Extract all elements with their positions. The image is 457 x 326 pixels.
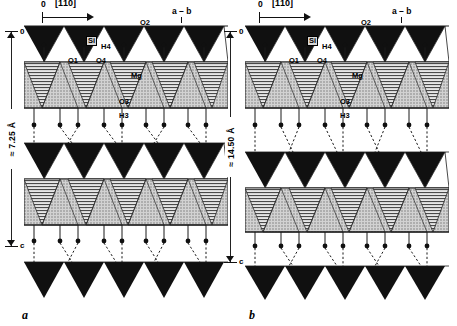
direction-axis-a: 0 [110] bbox=[42, 10, 94, 24]
interlayer-atoms2-a bbox=[32, 239, 209, 244]
c-axis-bottom-cap-a bbox=[5, 246, 18, 247]
atom-label-O1-a: O1 bbox=[68, 57, 78, 65]
ab-tick-a bbox=[181, 17, 182, 23]
atom-label-Si-b: Si bbox=[307, 36, 318, 46]
panel-b: 0 [110] a – b 0 c ≈ 14.50 Å bbox=[229, 0, 457, 326]
ab-label-text-b: a – b bbox=[392, 6, 411, 16]
c-axis-bottom-arrow-a bbox=[7, 240, 15, 246]
atom-label-Si-a: Si bbox=[86, 36, 97, 46]
atom-label-H3-a: H3 bbox=[119, 112, 129, 120]
tetra-row-bottom-a bbox=[24, 262, 228, 298]
c-axis-top-arrow-b bbox=[226, 32, 234, 38]
direction-label-b: [110] bbox=[272, 0, 293, 8]
ab-label-b: a – b bbox=[392, 6, 411, 23]
cell-parameter-a: ≈ 7.25 Å bbox=[6, 109, 18, 169]
hbonds2-b bbox=[255, 248, 427, 266]
cell-parameter-b: ≈ 14.50 Å bbox=[225, 117, 237, 177]
interlayer-atoms-b bbox=[253, 123, 430, 128]
atom-label-O3-b: O3 bbox=[340, 98, 350, 106]
structure-svg-a bbox=[24, 24, 228, 300]
c-axis-bottom-arrow-b bbox=[226, 256, 234, 262]
ab-label-text-a: a – b bbox=[172, 6, 191, 16]
interlayer-atoms2-b bbox=[253, 244, 430, 249]
axis-arrow-b bbox=[304, 13, 311, 21]
direction-label-a: [110] bbox=[55, 0, 76, 8]
panel-letter-b: b bbox=[249, 308, 255, 323]
hbonds2-a bbox=[34, 243, 206, 262]
axis-arrow-a bbox=[87, 13, 94, 21]
atom-label-H3-b: H3 bbox=[340, 112, 350, 120]
atom-label-O4-a: O4 bbox=[96, 57, 106, 65]
interlayer-atoms-a bbox=[32, 123, 209, 128]
panel-letter-a: a bbox=[22, 308, 28, 323]
panel-a: 0 [110] a – b 0 c ≈ 7.25 Å bbox=[0, 0, 228, 326]
atom-label-O1-b: O1 bbox=[289, 57, 299, 65]
atom-label-Mg-a: Mg bbox=[131, 72, 142, 80]
atom-label-H4-a: H4 bbox=[101, 43, 111, 51]
lower-bonds2-a bbox=[34, 225, 206, 240]
ab-tick-b bbox=[401, 17, 402, 23]
structure-svg-b bbox=[245, 24, 449, 300]
atom-label-O2-b: O2 bbox=[361, 19, 371, 27]
hbonds-a bbox=[34, 127, 206, 143]
axis-line-a bbox=[42, 17, 87, 18]
hbonds-b bbox=[255, 127, 427, 152]
structure-drawing-a bbox=[24, 24, 228, 300]
c-axis-bottom-cap-b bbox=[224, 262, 237, 263]
c-axis-top-arrow-a bbox=[7, 32, 15, 38]
atom-label-H4-b: H4 bbox=[322, 43, 332, 51]
tetra-row-middle-b bbox=[245, 152, 449, 188]
atom-label-O4-b: O4 bbox=[317, 57, 327, 65]
octa-band-bottom-a bbox=[24, 179, 228, 225]
atom-label-Mg-b: Mg bbox=[352, 72, 363, 80]
h-origin-label-a: 0 bbox=[41, 0, 46, 9]
overbar-1-a: 1 bbox=[63, 0, 68, 8]
c-axis-c-label-b: c bbox=[239, 258, 243, 266]
structure-drawing-b bbox=[245, 24, 449, 300]
overbar-1-b: 1 bbox=[280, 0, 285, 8]
c-axis-origin-b: 0 bbox=[239, 28, 243, 36]
direction-axis-b: 0 [110] bbox=[259, 10, 311, 24]
lower-bonds2-b bbox=[255, 232, 427, 245]
c-axis-b: 0 c ≈ 14.50 Å bbox=[221, 31, 247, 263]
octa-band-bottom-b bbox=[245, 188, 449, 232]
axis-line-b bbox=[259, 17, 304, 18]
tetra-row-middle-a bbox=[24, 143, 228, 179]
atom-label-O2-a: O2 bbox=[140, 19, 150, 27]
h-origin-label-b: 0 bbox=[258, 0, 263, 9]
ab-label-a: a – b bbox=[172, 6, 191, 23]
tetra-row-bottom-b bbox=[245, 266, 449, 300]
atom-label-O3-a: O3 bbox=[119, 98, 129, 106]
